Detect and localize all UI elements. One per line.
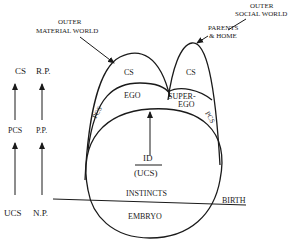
region-superego-line2: EGO (178, 100, 195, 109)
birth-label: BIRTH (222, 196, 246, 205)
parents-home-line2: & HOME (209, 32, 237, 40)
outer-social-world-line1: OUTER (250, 2, 274, 10)
region-embryo: EMBRYO (128, 212, 162, 221)
region-ego: EGO (124, 91, 141, 100)
psyche-diagram: CS PCS UCS R.P. P.P. N.P. BIRTH CS EGO P… (0, 0, 296, 249)
region-ucs: (UCS) (134, 168, 158, 178)
birth-line (53, 199, 246, 205)
region-id: ID (143, 153, 153, 163)
outer-material-world-line1: OUTER (58, 18, 82, 26)
scale-pcs-label: PCS (8, 126, 22, 135)
parents-home-line1: PARENTS (208, 24, 239, 32)
outer-social-world-line2: SOCIAL WORLD (235, 10, 287, 18)
scale-np-label: N.P. (33, 208, 48, 218)
outer-material-world-line2: MATERIAL WORLD (36, 27, 98, 35)
scale-rp-label: R.P. (36, 66, 51, 76)
region-cs-right: CS (186, 68, 196, 77)
arrow-pointer-icon (197, 36, 208, 43)
region-cs-left: CS (124, 68, 134, 77)
arrow-pointer-icon (80, 37, 114, 63)
scale-ucs-label: UCS (4, 208, 22, 218)
scale-cs-label: CS (15, 66, 26, 76)
scale-pp-label: P.P. (36, 126, 47, 135)
left-scale-column-1: CS PCS UCS (4, 66, 26, 218)
region-instincts: INSTINCTS (126, 189, 167, 198)
left-scale-column-2: R.P. P.P. N.P. (33, 66, 51, 218)
